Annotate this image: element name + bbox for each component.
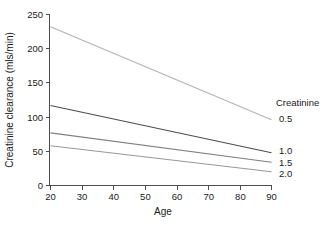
series-line-1-0 xyxy=(51,105,272,152)
y-tick-label-200: 200 xyxy=(27,43,43,54)
legend-label-0-5: 0.5 xyxy=(279,113,292,124)
x-tick-label-90: 90 xyxy=(266,191,277,202)
x-tick-label-60: 60 xyxy=(172,191,183,202)
y-axis-tick-labels: 250 200 150 100 50 0 xyxy=(27,9,43,191)
y-tick-label-50: 50 xyxy=(32,146,43,157)
y-tick-label-0: 0 xyxy=(38,180,43,191)
x-axis-title: Age xyxy=(154,206,172,217)
x-tick-label-20: 20 xyxy=(45,191,56,202)
series-line-2-0 xyxy=(51,146,272,172)
x-axis-ticks xyxy=(51,186,272,190)
y-axis-title: Creatinine clearance (mls/min) xyxy=(4,32,15,168)
creatinine-clearance-line-chart: 250 200 150 100 50 0 20 30 40 50 60 70 8… xyxy=(0,0,330,227)
data-series-group xyxy=(51,27,272,172)
x-tick-label-30: 30 xyxy=(77,191,88,202)
y-tick-label-150: 150 xyxy=(27,77,43,88)
y-tick-label-250: 250 xyxy=(27,9,43,20)
chart-figure: 250 200 150 100 50 0 20 30 40 50 60 70 8… xyxy=(0,0,330,227)
x-tick-label-40: 40 xyxy=(109,191,120,202)
legend-heading: Creatinine xyxy=(276,97,319,108)
series-line-0-5 xyxy=(51,27,272,120)
x-tick-label-80: 80 xyxy=(235,191,246,202)
legend: Creatinine 0.5 1.0 1.5 2.0 xyxy=(276,97,319,179)
x-axis-tick-labels: 20 30 40 50 60 70 80 90 xyxy=(45,191,277,202)
y-tick-label-100: 100 xyxy=(27,112,43,123)
x-tick-label-70: 70 xyxy=(203,191,214,202)
x-tick-label-50: 50 xyxy=(140,191,151,202)
legend-label-2-0: 2.0 xyxy=(279,168,292,179)
legend-label-1-0: 1.0 xyxy=(279,145,292,156)
y-axis-ticks xyxy=(46,15,50,186)
legend-label-1-5: 1.5 xyxy=(279,157,292,168)
series-line-1-5 xyxy=(51,133,272,162)
